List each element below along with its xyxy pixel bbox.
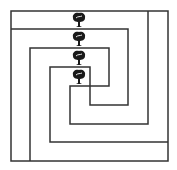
tree-icon: tree 4 [72,69,86,85]
tree-icon: tree 2 [72,31,86,47]
tree-icon: tree 3 [72,50,86,66]
spiral-path-b [30,11,148,161]
maze-diagram: tree 1tree 2tree 3tree 4 [0,0,177,170]
tree-icon: tree 1 [72,12,86,28]
